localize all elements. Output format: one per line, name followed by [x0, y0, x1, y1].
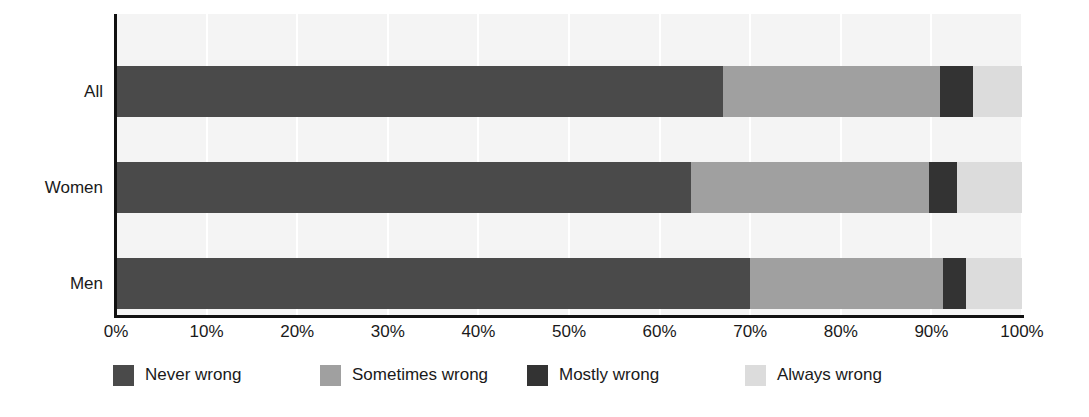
x-tick-label: 100% — [1000, 322, 1043, 342]
bar-segment[interactable] — [973, 66, 1022, 117]
legend-swatch-icon — [320, 365, 341, 386]
x-tick-label: 50% — [552, 322, 586, 342]
bar-segment[interactable] — [116, 66, 723, 117]
legend-item[interactable]: Never wrong — [113, 363, 241, 387]
bar-row[interactable] — [116, 162, 1022, 213]
category-label-men: Men — [0, 258, 103, 309]
x-tick-label: 30% — [371, 322, 405, 342]
x-tick-label: 70% — [733, 322, 767, 342]
legend-swatch-icon — [745, 365, 766, 386]
bar-segment[interactable] — [940, 66, 973, 117]
legend-swatch-icon — [527, 365, 548, 386]
legend-swatch-icon — [113, 365, 134, 386]
chart-legend: Never wrongSometimes wrongMostly wrongAl… — [0, 363, 1089, 393]
legend-label: Sometimes wrong — [352, 365, 488, 385]
x-tick-label: 90% — [914, 322, 948, 342]
bar-row[interactable] — [116, 66, 1022, 117]
bar-segment[interactable] — [723, 66, 940, 117]
bar-segment[interactable] — [943, 258, 966, 309]
x-axis-line — [114, 315, 1024, 318]
bar-segment[interactable] — [957, 162, 1022, 213]
legend-item[interactable]: Sometimes wrong — [320, 363, 488, 387]
legend-item[interactable]: Mostly wrong — [527, 363, 659, 387]
x-tick-label: 80% — [824, 322, 858, 342]
x-tick-label: 0% — [104, 322, 129, 342]
bar-segment[interactable] — [116, 258, 750, 309]
legend-label: Always wrong — [777, 365, 882, 385]
bar-segment[interactable] — [691, 162, 928, 213]
bar-segment[interactable] — [116, 162, 691, 213]
category-label-all: All — [0, 66, 103, 117]
x-tick-label: 40% — [461, 322, 495, 342]
bar-segment[interactable] — [929, 162, 957, 213]
category-label-women: Women — [0, 162, 103, 213]
y-axis-line — [114, 14, 117, 318]
legend-label: Mostly wrong — [559, 365, 659, 385]
x-tick-label: 20% — [280, 322, 314, 342]
x-tick-label: 10% — [190, 322, 224, 342]
plot-area — [116, 14, 1022, 318]
bar-row[interactable] — [116, 258, 1022, 309]
bar-segment[interactable] — [750, 258, 943, 309]
stacked-bar-chart: AllWomenMen 0%10%20%30%40%50%60%70%80%90… — [0, 0, 1089, 417]
legend-item[interactable]: Always wrong — [745, 363, 882, 387]
bar-segment[interactable] — [966, 258, 1022, 309]
x-tick-label: 60% — [643, 322, 677, 342]
legend-label: Never wrong — [145, 365, 241, 385]
